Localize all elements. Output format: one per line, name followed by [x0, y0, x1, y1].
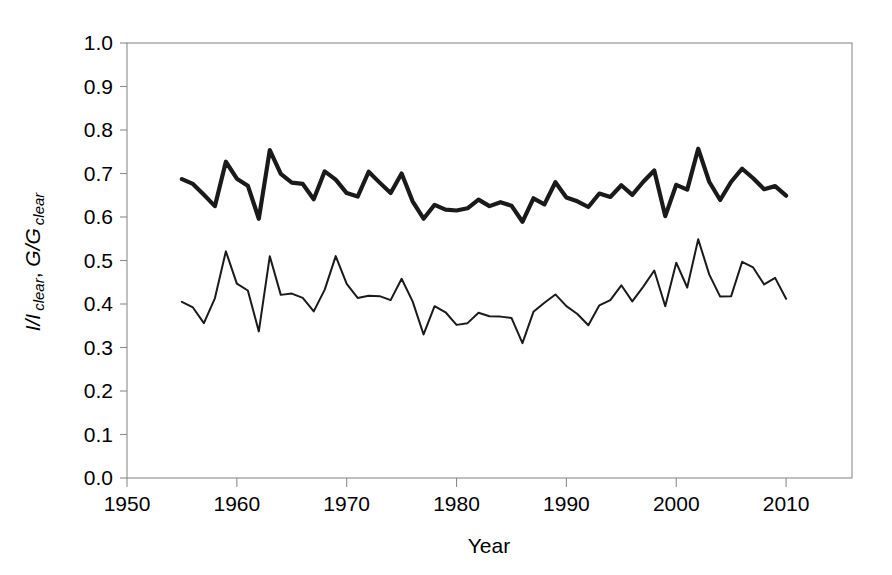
- x-tick-label: 1980: [433, 492, 480, 515]
- y-axis-title-sub2: clear: [30, 192, 47, 226]
- y-tick-label: 0.8: [84, 118, 113, 141]
- y-tick-label: 0.5: [84, 249, 113, 272]
- plot-frame: [127, 43, 852, 478]
- y-axis-tick-marks: [120, 43, 127, 478]
- y-tick-label: 0.1: [84, 423, 113, 446]
- series-line-g-over-gclear: [182, 149, 786, 222]
- x-tick-label: 1950: [104, 492, 151, 515]
- x-tick-label: 2000: [653, 492, 700, 515]
- x-tick-label: 2010: [763, 492, 810, 515]
- chart-figure: 0.00.10.20.30.40.50.60.70.80.91.0 195019…: [0, 0, 892, 575]
- y-axis-title-part1: I/I: [21, 314, 44, 332]
- y-axis-title-part2: G/G: [21, 228, 44, 267]
- x-axis-title-group: Year: [468, 534, 510, 557]
- y-tick-label: 0.4: [84, 292, 114, 315]
- y-tick-label: 0.7: [84, 162, 113, 185]
- x-tick-label: 1960: [213, 492, 260, 515]
- x-axis-title: Year: [468, 534, 510, 557]
- x-tick-label: 1970: [323, 492, 370, 515]
- series-line-i-over-iclear: [182, 239, 786, 343]
- x-axis-tick-labels: 1950196019701980199020002010: [104, 492, 810, 515]
- y-tick-label: 0.9: [84, 75, 113, 98]
- y-tick-label: 1.0: [84, 31, 113, 54]
- y-axis-title-separator: ,: [21, 267, 44, 279]
- y-tick-label: 0.6: [84, 205, 113, 228]
- x-axis-tick-marks: [127, 478, 786, 487]
- y-axis-title-sub1: clear: [30, 277, 47, 311]
- y-axis-title-group: I/Iclear, G/Gclear: [21, 192, 47, 332]
- y-tick-label: 0.3: [84, 336, 113, 359]
- data-series-group: [182, 149, 786, 343]
- plot-area-border: [127, 43, 852, 478]
- chart-svg: 0.00.10.20.30.40.50.60.70.80.91.0 195019…: [0, 0, 892, 575]
- x-tick-label: 1990: [543, 492, 590, 515]
- y-axis-title: I/Iclear, G/Gclear: [21, 192, 47, 332]
- y-tick-label: 0.0: [84, 466, 113, 489]
- y-tick-label: 0.2: [84, 379, 113, 402]
- y-axis-tick-labels: 0.00.10.20.30.40.50.60.70.80.91.0: [84, 31, 114, 489]
